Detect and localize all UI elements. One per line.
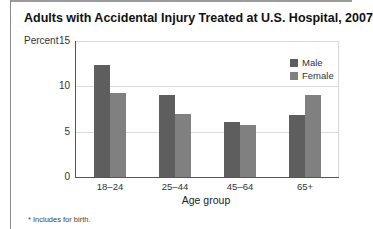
- bar-female-65-: [305, 95, 321, 177]
- frame-left-border: [10, 0, 11, 229]
- x-tick-45-64: 45–64: [215, 181, 265, 192]
- bar-male-18-24: [94, 65, 110, 177]
- legend-swatch-female: [290, 72, 298, 80]
- y-tick-10: 10: [52, 80, 70, 91]
- legend-label-female: Female: [302, 70, 334, 81]
- bar-female-18-24: [110, 93, 126, 177]
- x-tick-65-plus: 65+: [280, 181, 330, 192]
- y-tick-5: 5: [52, 126, 70, 137]
- x-axis-label: Age group: [146, 194, 266, 206]
- bar-female-45-64: [240, 125, 256, 177]
- bar-male-25-44: [159, 95, 175, 177]
- bar-female-25-44: [175, 114, 191, 177]
- x-axis: [75, 177, 339, 178]
- y-tick-15: 15: [52, 35, 70, 46]
- chart-title: Adults with Accidental Injury Treated at…: [24, 11, 373, 25]
- legend-item-female: Female: [290, 69, 334, 82]
- legend: Male Female: [290, 56, 334, 82]
- x-tick-25-44: 25–44: [150, 181, 200, 192]
- bar-male-65-: [289, 115, 305, 177]
- x-tick-18-24: 18–24: [85, 181, 135, 192]
- footnote: * Includes for birth.: [28, 215, 91, 224]
- legend-label-male: Male: [302, 57, 323, 68]
- legend-item-male: Male: [290, 56, 334, 69]
- gridline-10: [76, 86, 338, 87]
- y-tick-0: 0: [52, 171, 70, 182]
- y-axis: [75, 41, 76, 178]
- legend-swatch-male: [290, 59, 298, 67]
- bar-male-45-64: [224, 122, 240, 177]
- frame-top-border: [10, 0, 352, 2]
